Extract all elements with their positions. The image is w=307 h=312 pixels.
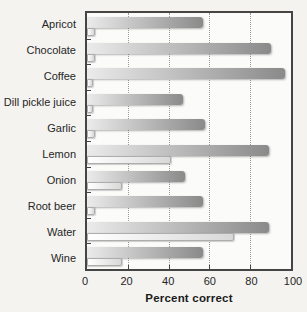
category-label: Chocolate	[0, 37, 81, 63]
bar-row	[87, 13, 291, 39]
bar-row	[87, 192, 291, 218]
category-label: Root beer	[0, 193, 81, 219]
category-labels: ApricotChocolateCoffeeDill pickle juiceG…	[0, 11, 81, 271]
dark-gradient-bar	[87, 196, 203, 207]
dark-gradient-bar	[87, 68, 285, 79]
dark-gradient-bar	[87, 247, 203, 258]
dark-gradient-bar	[87, 222, 269, 233]
light-gradient-bar	[87, 28, 95, 36]
light-gradient-bar	[87, 182, 122, 190]
bar-row	[87, 243, 291, 269]
light-gradient-bar	[87, 130, 95, 138]
bar-row	[87, 167, 291, 193]
x-tick-label: 100	[284, 275, 302, 287]
dark-gradient-bar	[87, 94, 183, 105]
plot-area	[85, 11, 293, 271]
bar-row	[87, 115, 291, 141]
x-axis-tick-labels: 020406080100	[85, 275, 293, 288]
x-tick-label: 40	[162, 275, 174, 287]
category-label: Lemon	[0, 141, 81, 167]
x-tick-label: 20	[120, 275, 132, 287]
bar-row	[87, 141, 291, 167]
category-label: Garlic	[0, 115, 81, 141]
x-tick-label: 0	[82, 275, 88, 287]
dark-gradient-bar	[87, 17, 203, 28]
x-axis-title: Percent correct	[85, 292, 293, 304]
dark-gradient-bar	[87, 119, 205, 130]
category-label: Dill pickle juice	[0, 89, 81, 115]
light-gradient-bar	[87, 105, 93, 113]
category-label: Apricot	[0, 11, 81, 37]
category-label: Onion	[0, 167, 81, 193]
light-gradient-bar	[87, 207, 95, 215]
light-gradient-bar	[87, 233, 234, 241]
bar-row	[87, 64, 291, 90]
light-gradient-bar	[87, 258, 122, 266]
bar-row	[87, 218, 291, 244]
x-tick-label: 80	[245, 275, 257, 287]
x-tick-label: 60	[204, 275, 216, 287]
bar-chart-figure: ApricotChocolateCoffeeDill pickle juiceG…	[0, 0, 307, 312]
bar-rows	[87, 13, 291, 269]
bar-row	[87, 90, 291, 116]
bar-row	[87, 39, 291, 65]
category-label: Water	[0, 219, 81, 245]
dark-gradient-bar	[87, 43, 271, 54]
category-label: Coffee	[0, 63, 81, 89]
category-label: Wine	[0, 245, 81, 271]
dark-gradient-bar	[87, 171, 185, 182]
dark-gradient-bar	[87, 145, 269, 156]
light-gradient-bar	[87, 79, 93, 87]
light-gradient-bar	[87, 156, 171, 164]
light-gradient-bar	[87, 54, 95, 62]
